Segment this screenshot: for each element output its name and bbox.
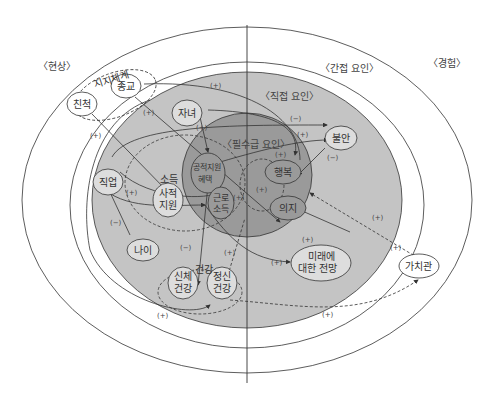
will-label: 의지 (279, 203, 297, 214)
diagram-canvas: 〈현상〉 〈간접 요인〉 〈경험〉 〈직접 요인〉 〈필수급 요인〉 지지체계 … (0, 0, 495, 403)
public-support-label-1: 공적지원 (193, 162, 221, 172)
label-phenomenon: 〈현상〉 (38, 61, 76, 72)
work-income-label-1: 근로 (213, 193, 229, 203)
values-label: 가치관 (405, 261, 432, 272)
work-income-label-2: 소득 (213, 204, 229, 214)
private-support-label-1: 사적 (159, 188, 177, 199)
sign-anxiety-minus: (−) (290, 115, 302, 123)
age-label: 나이 (134, 245, 152, 256)
anxiety-label: 불안 (332, 133, 350, 144)
public-support-label-2: 혜택 (198, 174, 212, 184)
label-income-group: 소득 (160, 174, 178, 185)
sign-future: (+) (271, 259, 283, 267)
sign-future-top: (+) (302, 236, 314, 244)
mental-health-label-2: 건강 (213, 283, 231, 294)
future-label-1: 미래에 (308, 251, 335, 262)
sign-anxiety-plus: (+) (297, 131, 309, 139)
sign-religion-happiness: (+) (143, 109, 155, 117)
sign-values-dashed: (+) (372, 214, 384, 222)
sign-public-happiness: (+) (233, 194, 245, 202)
sign-job-income: (+) (126, 189, 138, 197)
sign-bottom-left: (+) (157, 312, 169, 320)
label-indirect: 〈간접 요인〉 (320, 63, 379, 74)
node-work-income (208, 187, 234, 219)
private-support-label-2: 지원 (159, 200, 177, 211)
sign-age-job: (−) (110, 219, 122, 227)
label-direct: 〈직접 요인〉 (260, 91, 319, 102)
sign-happiness-plus: (+) (275, 151, 287, 159)
label-essential: 〈필수급 요인〉 (222, 139, 290, 150)
relatives-label: 친척 (73, 99, 91, 110)
sign-public-physical: (−) (180, 244, 192, 252)
sign-loop: (+) (256, 186, 268, 194)
mental-health-label-1: 정신 (213, 271, 231, 282)
religion-label: 종교 (117, 81, 135, 92)
label-health-group: 건강 (195, 264, 213, 275)
sign-children-public: (+) (196, 124, 208, 132)
physical-health-label-2: 건강 (174, 283, 192, 294)
sign-relatives-private: (+) (90, 132, 102, 140)
children-label: 자녀 (178, 108, 196, 119)
label-experience: 〈경험〉 (428, 57, 466, 69)
sign-bottom-right: (+) (322, 311, 334, 319)
physical-health-label-1: 신체 (174, 271, 192, 282)
sign-values-will: (+) (390, 244, 402, 252)
sign-anxiety-will: (−) (327, 154, 339, 162)
sign-religion-top: (+) (210, 82, 222, 90)
future-label-2: 대한 전망 (298, 263, 337, 274)
happiness-label: 행복 (274, 167, 292, 178)
sign-work-mental: (+) (224, 249, 236, 257)
job-label: 직업 (99, 176, 117, 188)
